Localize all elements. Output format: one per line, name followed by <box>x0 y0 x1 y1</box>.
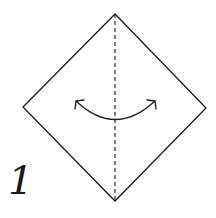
fold-unfold-arrow-icon <box>75 100 156 120</box>
step-number: 1 <box>8 160 33 200</box>
